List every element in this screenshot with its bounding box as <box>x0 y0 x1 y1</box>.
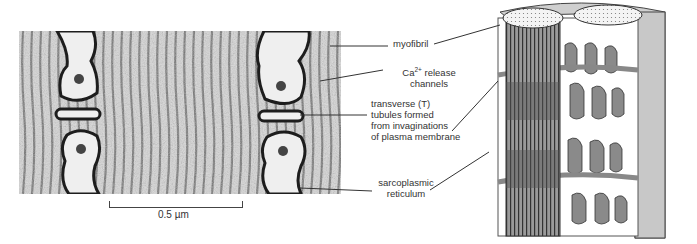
leader-lines <box>0 0 697 244</box>
